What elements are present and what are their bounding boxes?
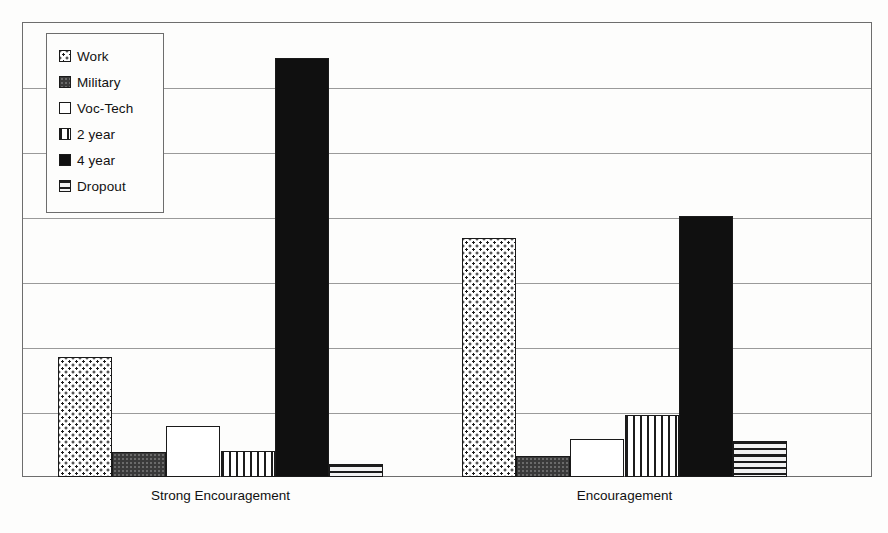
bar-work [58, 357, 112, 477]
legend-swatch-icon [59, 102, 71, 114]
legend-item-4-year[interactable]: 4 year [59, 147, 163, 173]
bar-2-year [221, 451, 275, 477]
bar-group [462, 22, 787, 477]
bar-2-year [625, 415, 679, 477]
bar-4-year [275, 58, 329, 477]
chart-legend: WorkMilitaryVoc-Tech2 year4 yearDropout [46, 33, 164, 213]
legend-swatch-icon [59, 154, 71, 166]
legend-swatch-icon [59, 128, 71, 140]
category-label-2: Encouragement [577, 488, 672, 503]
legend-swatch-icon [59, 50, 71, 62]
legend-item-label: 4 year [77, 153, 115, 168]
legend-item-work[interactable]: Work [59, 43, 163, 69]
legend-item-label: Work [77, 49, 109, 64]
category-label-1: Strong Encouragement [151, 488, 290, 503]
legend-item-label: Voc-Tech [77, 101, 133, 116]
bar-work [462, 238, 516, 477]
bar-4-year [679, 216, 733, 477]
legend-item-voc-tech[interactable]: Voc-Tech [59, 95, 163, 121]
category-axis-labels: Strong EncouragementEncouragement [22, 488, 872, 512]
bar-military [112, 452, 166, 477]
bar-chart: WorkMilitaryVoc-Tech2 year4 yearDropout … [0, 0, 888, 533]
bar-voc-tech [570, 439, 624, 477]
bar-dropout [329, 464, 383, 477]
legend-item-label: Military [77, 75, 121, 90]
legend-item-label: Dropout [77, 179, 126, 194]
legend-item-label: 2 year [77, 127, 115, 142]
bar-military [516, 456, 570, 477]
bar-voc-tech [166, 426, 220, 477]
legend-item-dropout[interactable]: Dropout [59, 173, 163, 199]
legend-item-military[interactable]: Military [59, 69, 163, 95]
legend-swatch-icon [59, 76, 71, 88]
legend-swatch-icon [59, 180, 71, 192]
bar-dropout [733, 441, 787, 477]
legend-item-2-year[interactable]: 2 year [59, 121, 163, 147]
